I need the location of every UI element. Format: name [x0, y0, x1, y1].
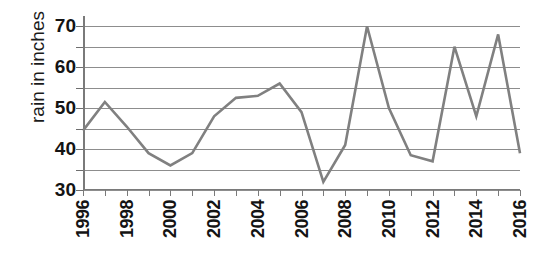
y-axis-tick-labels: 3040506070 — [30, 16, 76, 190]
series-line-rain-in-inches — [83, 16, 520, 190]
x-tick-mark-2009 — [367, 190, 368, 196]
x-tick-mark-1999 — [149, 190, 150, 196]
x-tick-mark-2003 — [236, 190, 237, 196]
x-tick-mark-2012 — [433, 190, 434, 196]
x-tick-mark-2015 — [498, 190, 499, 196]
x-tick-label-text-2010: 2010 — [378, 200, 399, 238]
x-tick-mark-2008 — [345, 190, 346, 196]
x-tick-mark-2002 — [214, 190, 215, 196]
y-tick-mark-40 — [76, 149, 83, 150]
x-tick-mark-2001 — [192, 190, 193, 196]
x-tick-mark-2005 — [280, 190, 281, 196]
x-tick-label-text-2014: 2014 — [466, 200, 487, 238]
x-tick-mark-1996 — [83, 190, 84, 196]
x-tick-mark-2007 — [323, 190, 324, 196]
x-tick-label-text-2016: 2016 — [510, 200, 531, 238]
x-tick-mark-2013 — [454, 190, 455, 196]
y-tick-label-60: 60 — [36, 56, 76, 78]
x-tick-mark-1998 — [127, 190, 128, 196]
x-tick-label-text-2012: 2012 — [422, 200, 443, 238]
y-tick-mark-30 — [76, 190, 83, 191]
x-tick-mark-2004 — [258, 190, 259, 196]
x-tick-label-text-2000: 2000 — [160, 200, 181, 238]
y-tick-label-70: 70 — [36, 15, 76, 37]
x-tick-label-text-1996: 1996 — [73, 200, 94, 238]
y-tick-mark-50 — [76, 108, 83, 109]
y-tick-mark-65 — [76, 47, 83, 48]
y-tick-label-40: 40 — [36, 138, 76, 160]
line-chart: rain in inches 3040506070 19961998200020… — [0, 0, 549, 258]
y-tick-mark-55 — [76, 88, 83, 89]
x-tick-mark-2006 — [302, 190, 303, 196]
x-tick-label-text-2002: 2002 — [204, 200, 225, 238]
y-tick-mark-70 — [76, 26, 83, 27]
y-tick-mark-45 — [76, 129, 83, 130]
y-tick-label-50: 50 — [36, 97, 76, 119]
y-tick-mark-35 — [76, 170, 83, 171]
x-tick-mark-1997 — [105, 190, 106, 196]
x-tick-label-text-2008: 2008 — [335, 200, 356, 238]
x-tick-mark-2014 — [476, 190, 477, 196]
plot-area — [83, 16, 520, 190]
x-tick-mark-2016 — [520, 190, 521, 196]
x-tick-mark-2011 — [411, 190, 412, 196]
x-tick-mark-2000 — [170, 190, 171, 196]
x-tick-label-text-2006: 2006 — [291, 200, 312, 238]
y-tick-label-30: 30 — [36, 179, 76, 201]
x-tick-mark-2010 — [389, 190, 390, 196]
x-tick-label-text-1998: 1998 — [116, 200, 137, 238]
y-tick-mark-60 — [76, 67, 83, 68]
x-tick-label-text-2004: 2004 — [247, 200, 268, 238]
